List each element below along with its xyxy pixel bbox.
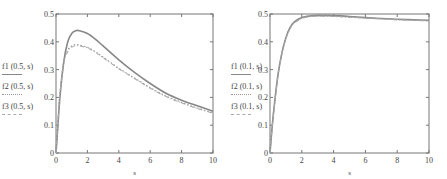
series-line-1 <box>56 30 213 153</box>
y-tick-label: 0.2 <box>44 93 54 102</box>
axes-frame <box>56 14 213 153</box>
series-line-1 <box>270 15 429 153</box>
y-tick-label: 0.3 <box>44 66 54 75</box>
series-line-3 <box>56 46 213 153</box>
y-tick-label: 0.1 <box>44 121 54 130</box>
y-tick-label: 0.5 <box>44 10 54 19</box>
x-tick-label: 4 <box>332 156 336 165</box>
series-line-2 <box>270 16 429 153</box>
x-axis-label: s <box>348 169 351 177</box>
chart-right: 024681000.10.20.30.40.5sf1 (0.1, s)f2 (0… <box>223 0 447 179</box>
y-tick-label: 0 <box>264 149 268 158</box>
legend-label-1: f1 (0.1, s) <box>231 62 262 71</box>
y-tick-label: 0.5 <box>258 10 268 19</box>
x-tick-label: 2 <box>85 156 89 165</box>
axes-frame <box>270 14 429 153</box>
legend-label-1: f1 (0.5, s) <box>2 62 33 71</box>
x-tick-label: 8 <box>395 156 399 165</box>
legend-line-sample-3 <box>2 114 22 115</box>
legend-label-3: f3 (0.1, s) <box>231 102 262 111</box>
x-tick-label: 6 <box>148 156 152 165</box>
x-tick-label: 10 <box>425 156 433 165</box>
x-tick-label: 6 <box>363 156 367 165</box>
x-tick-label: 8 <box>180 156 184 165</box>
y-tick-label: 0.4 <box>258 38 268 47</box>
x-tick-label: 4 <box>117 156 121 165</box>
chart-left: 024681000.10.20.30.40.5sf1 (0.5, s)f2 (0… <box>0 0 223 179</box>
x-tick-label: 2 <box>300 156 304 165</box>
legend-label-2: f2 (0.5, s) <box>2 82 33 91</box>
legend-label-2: f2 (0.1, s) <box>231 82 262 91</box>
y-tick-label: 0.4 <box>44 38 54 47</box>
legend-line-sample-1 <box>231 74 251 75</box>
legend-line-sample-1 <box>2 74 22 75</box>
series-line-3 <box>270 16 429 153</box>
x-tick-label: 0 <box>54 156 58 165</box>
y-tick-label: 0 <box>50 149 54 158</box>
legend-line-sample-3 <box>231 114 251 115</box>
plot-area: 024681000.10.20.30.40.5s <box>0 0 223 179</box>
legend-label-3: f3 (0.5, s) <box>2 102 33 111</box>
legend-line-sample-2 <box>2 94 22 95</box>
x-tick-label: 0 <box>268 156 272 165</box>
x-axis-label: s <box>133 169 136 177</box>
legend-line-sample-2 <box>231 94 251 95</box>
y-tick-label: 0.1 <box>258 121 268 130</box>
x-tick-label: 10 <box>209 156 217 165</box>
series-line-2 <box>56 45 213 153</box>
